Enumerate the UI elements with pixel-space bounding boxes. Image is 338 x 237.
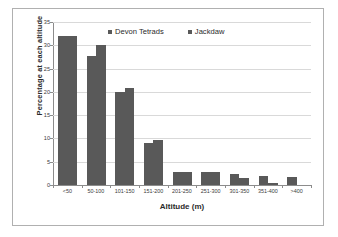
y-axis-tick-labels: 05101520253035 [26, 22, 50, 185]
y-axis-tick-mark [50, 162, 53, 163]
y-axis-tick-mark [50, 45, 53, 46]
bar[interactable] [58, 36, 68, 185]
bar[interactable] [115, 92, 125, 185]
legend-entry[interactable]: Jackdaw [188, 27, 225, 36]
bar-group [87, 22, 106, 185]
x-axis-tick-mark [53, 185, 54, 188]
bar[interactable] [153, 140, 163, 185]
gridline [53, 185, 311, 186]
x-axis-title: Altitude (m) [53, 202, 311, 211]
y-axis-tick-mark [50, 22, 53, 23]
y-axis-tick-mark [50, 92, 53, 93]
x-axis-tick-mark [139, 185, 140, 188]
bar[interactable] [230, 174, 240, 185]
y-axis-tick-mark [50, 138, 53, 139]
bar[interactable] [182, 172, 192, 185]
y-axis-tick-label: 25 [28, 66, 50, 72]
bar[interactable] [201, 172, 211, 186]
x-axis-tick-mark [110, 185, 111, 188]
x-axis-tick-label: 201-250 [168, 188, 197, 194]
x-axis-tick-label: 151-200 [139, 188, 168, 194]
x-axis-tick-label: >400 [282, 188, 311, 194]
bar-group [230, 22, 249, 185]
x-axis-tick-label: 351-400 [254, 188, 283, 194]
legend-entry[interactable]: Devon Tetrads [108, 27, 164, 36]
chart-frame: Percentage at each altitude 051015202530… [12, 8, 324, 226]
y-axis-tick-label: 20 [28, 89, 50, 95]
y-axis-tick-label: 15 [28, 112, 50, 118]
bars-layer [53, 22, 311, 185]
bar-group [173, 22, 192, 185]
x-axis-tick-label: 251-300 [196, 188, 225, 194]
x-axis-tick-mark [168, 185, 169, 188]
bar[interactable] [96, 45, 106, 185]
chart-legend: Devon TetradsJackdaw [108, 27, 224, 36]
legend-label: Devon Tetrads [115, 27, 164, 36]
x-axis-tick-label: <50 [53, 188, 82, 194]
x-axis-tick-mark [254, 185, 255, 188]
bar-group [201, 22, 220, 185]
x-axis-tick-mark [225, 185, 226, 188]
bar[interactable] [287, 177, 297, 185]
bar-group [287, 22, 306, 185]
x-axis-tick-labels: <5050-100101-150151-200201-250251-300301… [53, 188, 311, 202]
bar[interactable] [239, 178, 249, 185]
x-axis-tick-mark [82, 185, 83, 188]
bar-group [115, 22, 134, 185]
bar[interactable] [87, 56, 97, 185]
x-axis-tick-label: 101-150 [110, 188, 139, 194]
y-axis-tick-label: 30 [28, 42, 50, 48]
bar-group [58, 22, 77, 185]
square-marker-icon [108, 30, 112, 34]
y-axis-tick-label: 5 [28, 159, 50, 165]
y-axis-tick-label: 35 [28, 19, 50, 25]
bar[interactable] [259, 176, 269, 185]
y-axis-tick-label: 0 [28, 182, 50, 188]
bar[interactable] [144, 143, 154, 185]
x-axis-tick-mark [311, 185, 312, 188]
bar[interactable] [268, 183, 278, 185]
x-axis-tick-label: 301-350 [225, 188, 254, 194]
y-axis-tick-mark [50, 69, 53, 70]
plot-area [53, 22, 311, 185]
bar[interactable] [67, 36, 77, 185]
bar-group [259, 22, 278, 185]
x-axis-tick-label: 50-100 [82, 188, 111, 194]
bar[interactable] [173, 172, 183, 185]
bar[interactable] [211, 172, 221, 185]
y-axis-tick-label: 10 [28, 135, 50, 141]
bar-group [144, 22, 163, 185]
x-axis-tick-mark [282, 185, 283, 188]
bar[interactable] [125, 88, 135, 185]
square-marker-icon [188, 30, 192, 34]
legend-label: Jackdaw [195, 27, 225, 36]
y-axis-tick-mark [50, 115, 53, 116]
x-axis-tick-mark [196, 185, 197, 188]
